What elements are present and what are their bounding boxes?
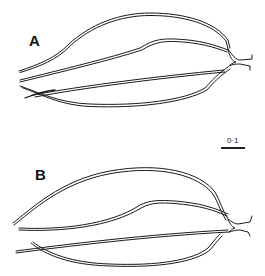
panel-a-veins	[19, 13, 252, 107]
vein-diagram	[0, 0, 265, 276]
panel-b-veins	[13, 168, 252, 267]
